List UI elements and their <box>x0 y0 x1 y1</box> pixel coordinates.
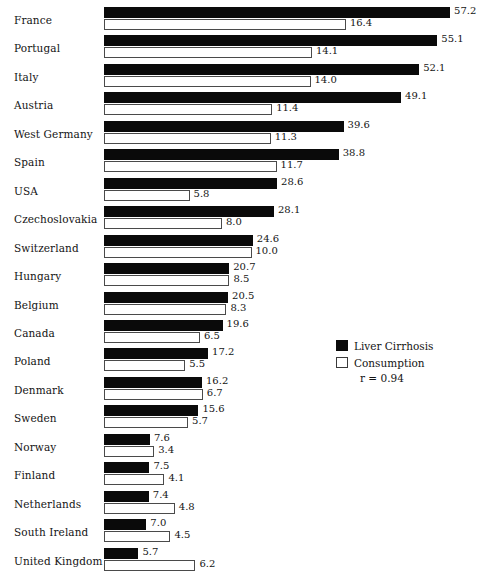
chart-row: Norway7.63.4 <box>0 433 485 461</box>
bar-value-consumption: 5.7 <box>192 415 208 426</box>
bar-value-consumption: 8.5 <box>233 273 249 284</box>
bar-consumption <box>104 76 311 87</box>
bar-chart: France57.216.4Portugal55.114.1Italy52.11… <box>0 0 485 587</box>
legend-item-consumption: Consumption <box>336 355 466 370</box>
chart-row: United Kingdom5.76.2 <box>0 547 485 575</box>
chart-row: Finland7.54.1 <box>0 461 485 489</box>
bar-liver-cirrhosis <box>104 7 450 18</box>
bar-consumption <box>104 531 170 542</box>
category-label: Austria <box>14 99 53 111</box>
bar-liver-cirrhosis <box>104 377 202 388</box>
bar-liver-cirrhosis <box>104 35 437 46</box>
chart-row: Spain38.811.7 <box>0 148 485 176</box>
bar-consumption <box>104 104 272 115</box>
bar-liver-cirrhosis <box>104 263 229 274</box>
bar-value-consumption: 8.0 <box>226 216 242 227</box>
category-label: Belgium <box>14 299 59 311</box>
bar-value-consumption: 4.1 <box>168 472 184 483</box>
bar-value-liver-cirrhosis: 57.2 <box>454 5 476 16</box>
bar-value-consumption: 3.4 <box>158 444 174 455</box>
legend-swatch-filled-icon <box>336 340 348 351</box>
category-label: Denmark <box>14 384 64 396</box>
bar-value-liver-cirrhosis: 7.0 <box>150 517 166 528</box>
category-label: United Kingdom <box>14 555 103 567</box>
category-label: Czechoslovakia <box>14 213 97 225</box>
bar-liver-cirrhosis <box>104 405 198 416</box>
bar-consumption <box>104 332 200 343</box>
bar-liver-cirrhosis <box>104 206 274 217</box>
chart-row: France57.216.4 <box>0 6 485 34</box>
chart-row: Italy52.114.0 <box>0 63 485 91</box>
chart-row: Sweden15.65.7 <box>0 404 485 432</box>
category-label: France <box>14 14 52 26</box>
bar-value-consumption: 6.2 <box>199 558 215 569</box>
bar-consumption <box>104 133 271 144</box>
bar-value-consumption: 14.1 <box>316 45 338 56</box>
bar-consumption <box>104 360 185 371</box>
bar-consumption <box>104 304 226 315</box>
bar-value-consumption: 4.5 <box>174 529 190 540</box>
bar-value-consumption: 6.7 <box>207 387 223 398</box>
chart-row: Belgium20.58.3 <box>0 291 485 319</box>
bar-value-liver-cirrhosis: 28.6 <box>281 176 303 187</box>
bar-consumption <box>104 503 175 514</box>
bar-value-liver-cirrhosis: 19.6 <box>227 318 249 329</box>
chart-row: Hungary20.78.5 <box>0 262 485 290</box>
bar-liver-cirrhosis <box>104 121 344 132</box>
chart-row: Czechoslovakia28.18.0 <box>0 205 485 233</box>
chart-legend: Liver Cirrhosis Consumption r = 0.94 <box>336 338 466 384</box>
bar-value-liver-cirrhosis: 28.1 <box>278 204 300 215</box>
chart-row: USA28.65.8 <box>0 177 485 205</box>
bar-liver-cirrhosis <box>104 292 228 303</box>
bar-value-liver-cirrhosis: 49.1 <box>405 90 427 101</box>
category-label: West Germany <box>14 128 93 140</box>
bar-liver-cirrhosis <box>104 491 149 502</box>
bar-value-consumption: 4.8 <box>179 501 195 512</box>
bar-consumption <box>104 389 203 400</box>
category-label: Switzerland <box>14 242 79 254</box>
bar-consumption <box>104 275 229 286</box>
bar-value-liver-cirrhosis: 7.4 <box>153 489 169 500</box>
bar-liver-cirrhosis <box>104 178 277 189</box>
legend-correlation-value: r = 0.94 <box>360 372 466 384</box>
bar-value-liver-cirrhosis: 7.5 <box>153 460 169 471</box>
bar-liver-cirrhosis <box>104 92 401 103</box>
category-label: Netherlands <box>14 498 81 510</box>
category-label: USA <box>14 185 38 197</box>
bar-value-liver-cirrhosis: 52.1 <box>423 62 445 73</box>
bar-consumption <box>104 19 346 30</box>
category-label: Hungary <box>14 270 61 282</box>
legend-label-consumption: Consumption <box>354 357 425 369</box>
bar-value-consumption: 11.4 <box>276 102 298 113</box>
chart-row: Switzerland24.610.0 <box>0 234 485 262</box>
bar-value-consumption: 11.3 <box>275 131 297 142</box>
bar-value-liver-cirrhosis: 24.6 <box>257 233 279 244</box>
bar-liver-cirrhosis <box>104 434 150 445</box>
bar-value-consumption: 8.3 <box>230 302 246 313</box>
bar-consumption <box>104 474 164 485</box>
category-label: Spain <box>14 156 45 168</box>
bar-liver-cirrhosis <box>104 548 138 559</box>
chart-row: South Ireland7.04.5 <box>0 518 485 546</box>
category-label: Poland <box>14 355 51 367</box>
category-label: Canada <box>14 327 55 339</box>
category-label: Sweden <box>14 412 57 424</box>
category-label: Portugal <box>14 42 60 54</box>
bar-value-consumption: 11.7 <box>281 159 303 170</box>
bar-value-consumption: 10.0 <box>256 245 278 256</box>
bar-value-consumption: 14.0 <box>315 74 337 85</box>
bar-value-consumption: 5.8 <box>194 188 210 199</box>
legend-item-liver-cirrhosis: Liver Cirrhosis <box>336 338 466 353</box>
bar-consumption <box>104 446 154 457</box>
bar-consumption <box>104 218 222 229</box>
chart-row: Portugal55.114.1 <box>0 34 485 62</box>
bar-value-liver-cirrhosis: 7.6 <box>154 432 170 443</box>
bar-liver-cirrhosis <box>104 64 419 75</box>
legend-label-liver-cirrhosis: Liver Cirrhosis <box>354 340 433 352</box>
bar-liver-cirrhosis <box>104 149 339 160</box>
category-label: South Ireland <box>14 526 88 538</box>
bar-consumption <box>104 190 190 201</box>
bar-consumption <box>104 161 277 172</box>
bar-value-liver-cirrhosis: 15.6 <box>202 403 224 414</box>
bar-consumption <box>104 560 195 571</box>
